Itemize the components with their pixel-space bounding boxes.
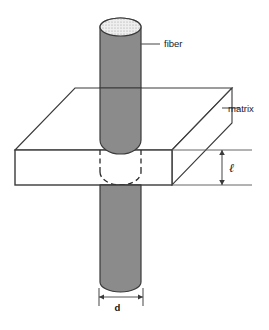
fiber-label: fiber xyxy=(164,38,182,49)
diameter-arrowhead-right xyxy=(138,294,143,299)
matrix-front-face xyxy=(15,150,172,185)
length-arrowhead-up xyxy=(219,150,225,155)
length-label: ℓ xyxy=(229,161,234,175)
length-arrowhead-down xyxy=(219,180,225,185)
fiber-lower-body xyxy=(100,185,141,292)
diagram-canvas: fiber matrix ℓ d xyxy=(0,0,269,330)
fiber-through-top-face xyxy=(100,88,141,154)
diameter-label: d xyxy=(115,302,121,313)
fiber-top-face-intersection xyxy=(100,88,141,154)
composite-fiber-matrix-figure: fiber matrix ℓ d xyxy=(0,0,269,330)
matrix-label: matrix xyxy=(228,103,254,114)
fiber-top-cap-ellipse xyxy=(100,18,141,36)
fiber-lower-segment xyxy=(100,185,141,292)
diameter-arrowhead-left xyxy=(99,294,104,299)
